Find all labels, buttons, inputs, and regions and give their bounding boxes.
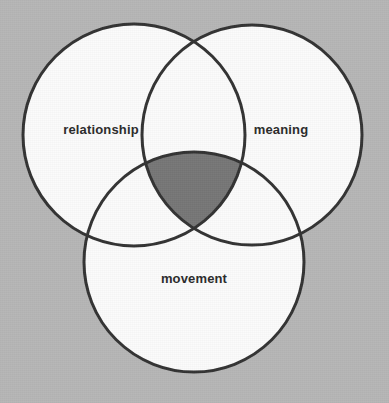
venn-label-movement: movement [161, 271, 227, 286]
venn-svg-canvas [0, 0, 389, 403]
venn-diagram: relationship meaning movement [0, 0, 389, 403]
venn-label-relationship: relationship [63, 122, 138, 137]
venn-label-meaning: meaning [254, 122, 309, 137]
